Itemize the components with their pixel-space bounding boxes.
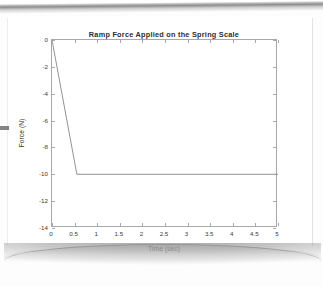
x-tick-label-0: 0 [49,230,52,237]
x-tick-0 [52,223,53,226]
data-series-svg [52,40,278,228]
x-tick-top-3 [120,40,121,43]
y-tick-label-0: 0 [28,36,48,43]
x-tick-label-9: 4.5 [250,230,259,237]
y-tick-right-4 [273,147,276,148]
y-tick-3 [52,121,55,122]
y-tick-right-5 [273,174,276,175]
plot-area [51,39,277,227]
x-tick-top-1 [75,40,76,43]
x-tick-top-8 [233,40,234,43]
x-tick-label-6: 3 [185,230,188,237]
y-tick-label-7: -14 [28,224,48,231]
x-tick-top-5 [165,40,166,43]
x-tick-label-1: 0.5 [69,230,78,237]
y-tick-label-2: -4 [28,89,48,96]
x-tick-6 [188,223,189,226]
x-tick-label-3: 1.5 [114,230,123,237]
y-tick-label-1: -2 [28,62,48,69]
x-tick-top-9 [255,40,256,43]
y-tick-7 [52,228,55,229]
x-tick-5 [165,223,166,226]
y-tick-0 [52,40,55,41]
x-tick-3 [120,223,121,226]
x-tick-top-2 [97,40,98,43]
y-tick-right-0 [273,40,276,41]
y-axis-title: Force (N) [18,119,25,148]
x-tick-7 [210,223,211,226]
x-tick-2 [97,223,98,226]
y-tick-right-7 [273,228,276,229]
x-tick-4 [142,223,143,226]
y-tick-right-3 [273,121,276,122]
page-top-edge [0,0,323,14]
y-tick-label-4: -8 [28,143,48,150]
scanned-page: Ramp Force Applied on the Spring Scale T… [0,0,323,287]
x-tick-label-5: 2.5 [160,230,169,237]
x-tick-top-10 [278,40,279,43]
y-tick-1 [52,67,55,68]
x-tick-label-10: 5 [275,230,278,237]
x-tick-10 [278,223,279,226]
chart-figure: Ramp Force Applied on the Spring Scale T… [0,16,313,246]
y-tick-6 [52,201,55,202]
y-tick-label-5: -10 [28,170,48,177]
y-tick-2 [52,94,55,95]
data-line-ramp-force [52,40,278,174]
y-tick-right-2 [273,94,276,95]
x-tick-top-6 [188,40,189,43]
y-tick-label-3: -6 [28,116,48,123]
x-tick-label-4: 2 [140,230,143,237]
x-tick-label-8: 4 [230,230,233,237]
x-tick-9 [255,223,256,226]
x-tick-1 [75,223,76,226]
x-tick-label-7: 3.5 [205,230,214,237]
x-tick-8 [233,223,234,226]
y-tick-5 [52,174,55,175]
y-tick-right-6 [273,201,276,202]
y-tick-4 [52,147,55,148]
y-tick-right-1 [273,67,276,68]
x-tick-top-7 [210,40,211,43]
chart-title: Ramp Force Applied on the Spring Scale [51,30,277,39]
x-tick-label-2: 1 [94,230,97,237]
x-tick-top-4 [142,40,143,43]
y-tick-label-6: -12 [28,197,48,204]
